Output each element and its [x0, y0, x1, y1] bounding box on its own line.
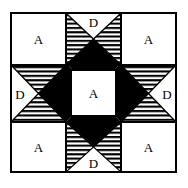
grid-divider-horizontal-top [12, 64, 175, 66]
quarter-square-unit-bottom [67, 123, 120, 171]
cell-label-bottom-left: A [34, 141, 43, 154]
grid-divider-vertical-left [65, 14, 67, 171]
grid-divider-horizontal-bottom [12, 121, 175, 123]
quilt-block-diagram: A D A [10, 12, 177, 173]
cell-label-center: A [89, 87, 98, 100]
quilt-cell-bottom-center: D [67, 123, 120, 171]
cell-label-bottom-right: A [144, 141, 153, 154]
quilt-cell-middle-right: D [122, 66, 175, 121]
quilt-cell-bottom-right: A [122, 123, 175, 171]
quilt-cell-top-left: A [12, 14, 65, 64]
cell-label-top-right: A [144, 33, 153, 46]
quilt-cell-middle-left: D [12, 66, 65, 121]
quilt-cell-bottom-left: A [12, 123, 65, 171]
quilt-cell-top-right: A [122, 14, 175, 64]
quilt-grid: A D A [12, 14, 175, 171]
cell-label-top-left: A [34, 33, 43, 46]
quilt-cell-center: A [70, 69, 117, 117]
quarter-square-unit-right [122, 66, 175, 121]
quarter-square-unit-top [67, 14, 120, 64]
quilt-cell-top-center: D [67, 14, 120, 64]
quarter-square-unit-left [12, 66, 65, 121]
grid-divider-vertical-right [120, 14, 122, 171]
